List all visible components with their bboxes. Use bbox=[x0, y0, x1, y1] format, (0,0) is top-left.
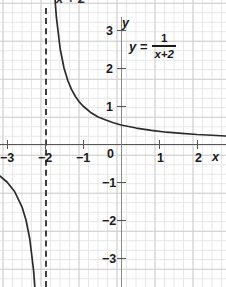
function-curves bbox=[0, 0, 226, 287]
equation-annotation: y = 1 x+2 bbox=[129, 32, 176, 60]
equation-fraction: 1 x+2 bbox=[152, 32, 176, 60]
fraction-denominator: x+2 bbox=[152, 48, 176, 60]
fraction-numerator: 1 bbox=[157, 32, 171, 44]
fraction-bar bbox=[152, 45, 176, 46]
curve-right-branch bbox=[55, 0, 226, 136]
equation-lhs: y = bbox=[129, 39, 147, 54]
curve-left-branch bbox=[0, 176, 35, 287]
graph-figure: x + 2 −3 −2 −1 0 1 2 3 2 1 −1 −2 −3 x y … bbox=[0, 0, 226, 287]
